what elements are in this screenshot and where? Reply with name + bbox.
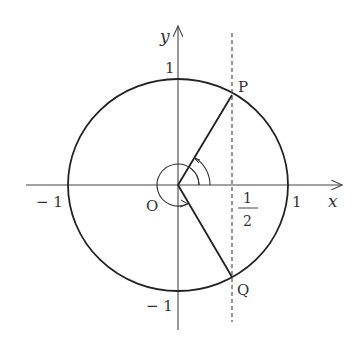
tick-y-pos-1: 1 — [165, 59, 175, 77]
x-axis-label: x — [328, 191, 338, 211]
tick-x-neg-1: − 1 — [36, 193, 63, 211]
segment-OQ — [178, 185, 232, 277]
tick-half-denominator: 2 — [243, 213, 252, 229]
angle-arc-60 — [194, 157, 210, 185]
tick-half-numerator: 1 — [243, 190, 252, 206]
tick-x-pos-1: 1 — [292, 193, 302, 211]
point-P-label: P — [238, 78, 248, 96]
tick-y-neg-1: − 1 — [146, 297, 173, 315]
origin-label: O — [146, 197, 158, 215]
unit-circle-diagram: y x O 1 − 1 − 1 1 1 2 P Q — [0, 0, 352, 348]
point-Q-label: Q — [237, 281, 249, 299]
segment-OP — [178, 95, 232, 185]
y-axis-label: y — [159, 26, 170, 46]
